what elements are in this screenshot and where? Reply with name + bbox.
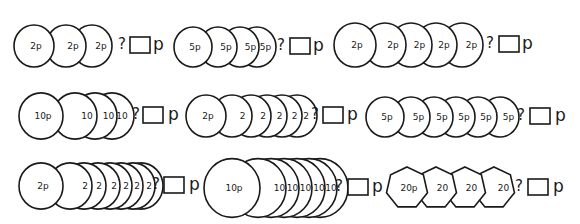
coin-label: 5p [413, 112, 425, 122]
question-mark: ? [152, 175, 160, 193]
coin-label: 2p [387, 40, 399, 50]
coin-label: 5p [436, 112, 448, 122]
coin-label: 2 [277, 111, 283, 121]
coin-label: 10p [34, 111, 51, 121]
coin-label: 5p [381, 112, 393, 122]
coin: 5p [366, 97, 404, 137]
coin-label: 2p [414, 40, 426, 50]
coin-label: 5p [245, 42, 257, 52]
coin-label: 5p [503, 112, 515, 122]
question-mark: ? [517, 106, 525, 124]
coin-worksheet: 2p2p2p?p5p5p5p5p?p2p2p2p2p2p?p10101010p?… [0, 0, 580, 224]
coin-label: 10 [103, 111, 115, 121]
coin-label: 10 [274, 183, 286, 193]
coin-label: 10 [81, 111, 93, 121]
coin: 2p [334, 23, 376, 67]
coin-label: 20 [437, 183, 449, 193]
question-mark: ? [118, 35, 126, 53]
question-mark: ? [132, 105, 140, 123]
unit-label: p [313, 35, 324, 55]
unit-label: p [555, 105, 566, 125]
coin-label: 10 [300, 183, 312, 193]
unit-label: p [189, 174, 200, 194]
coin-label: 2p [37, 181, 49, 191]
coin-label: 2 [240, 111, 246, 121]
coin-label: 2 [260, 111, 266, 121]
coin-label: 10 [313, 183, 325, 193]
coin-label: 5p [220, 42, 232, 52]
coin-label: 2p [202, 111, 214, 121]
coin-label: 2p [95, 41, 107, 51]
coin-label: 2 [292, 111, 298, 121]
answer-box[interactable] [323, 107, 343, 123]
coin-label: 2p [438, 40, 450, 50]
question-mark: ? [335, 177, 343, 195]
coin: 2p [19, 163, 63, 209]
coin-problem: 2p2p2p2p2p?p [334, 23, 533, 67]
answer-box[interactable] [164, 177, 184, 193]
coin-label: 2 [146, 181, 152, 191]
coin-label: 2p [466, 40, 478, 50]
coin-label: 2p [351, 40, 363, 50]
coin-problem: 22222222p?p [19, 163, 200, 209]
answer-box[interactable] [530, 108, 550, 124]
coin-label: 5p [480, 112, 492, 122]
coin-label: 2p [30, 41, 42, 51]
unit-label: p [347, 104, 358, 124]
coin-label: 10 [287, 183, 299, 193]
coin-label: 2 [111, 181, 117, 191]
coin-problem: 5p5p5p5p5p5p?p [366, 97, 566, 137]
coin-label: 2 [303, 111, 309, 121]
coin-label: 2p [67, 41, 79, 51]
coin-label: 20 [498, 183, 510, 193]
coin: 20p [387, 167, 428, 207]
question-mark: ? [515, 177, 523, 195]
coin-problem: 10101010p?p [19, 93, 179, 139]
coin-label: 2 [134, 181, 140, 191]
coin-problem: 20202020p?p [387, 167, 564, 207]
coin-label: 5p [189, 42, 201, 52]
coin-label: 2 [82, 181, 88, 191]
unit-label: p [522, 33, 533, 53]
coin-problem: 10101010101010p?p [204, 159, 383, 218]
coin-problem: 2p2p2p?p [14, 25, 164, 67]
coin: 2p [186, 95, 226, 137]
coin-label: 5p [260, 42, 272, 52]
coin-label: 5p [458, 112, 470, 122]
unit-label: p [553, 176, 564, 196]
answer-box[interactable] [130, 37, 150, 53]
coin: 5p [174, 27, 212, 67]
coin: 2p [14, 25, 54, 67]
coin-label: 2 [123, 181, 129, 191]
question-mark: ? [486, 34, 494, 52]
answer-box[interactable] [499, 36, 519, 52]
question-mark: ? [311, 105, 319, 123]
question-mark: ? [277, 36, 285, 54]
coin-label: 10p [225, 183, 242, 193]
answer-box[interactable] [348, 179, 368, 195]
unit-label: p [168, 104, 179, 124]
coin-label: 2 [96, 181, 102, 191]
coin-problem: 5p5p5p5p?p [174, 27, 324, 67]
unit-label: p [153, 34, 164, 54]
coin-problem: 222222p?p [186, 95, 358, 137]
answer-box[interactable] [528, 179, 548, 195]
coin-label: 20p [400, 183, 417, 193]
coin: 10p [204, 159, 260, 218]
answer-box[interactable] [290, 38, 310, 54]
unit-label: p [372, 176, 383, 196]
coin: 10p [19, 93, 63, 139]
coin-label: 10 [116, 111, 128, 121]
answer-box[interactable] [143, 107, 163, 123]
coin-label: 20 [466, 183, 478, 193]
